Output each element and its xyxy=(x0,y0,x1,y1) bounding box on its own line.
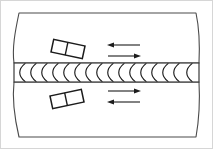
diagram-canvas xyxy=(0,0,213,149)
lower-plate xyxy=(13,82,199,137)
weld-joint-figure xyxy=(0,0,213,149)
upper-plate xyxy=(13,13,199,63)
